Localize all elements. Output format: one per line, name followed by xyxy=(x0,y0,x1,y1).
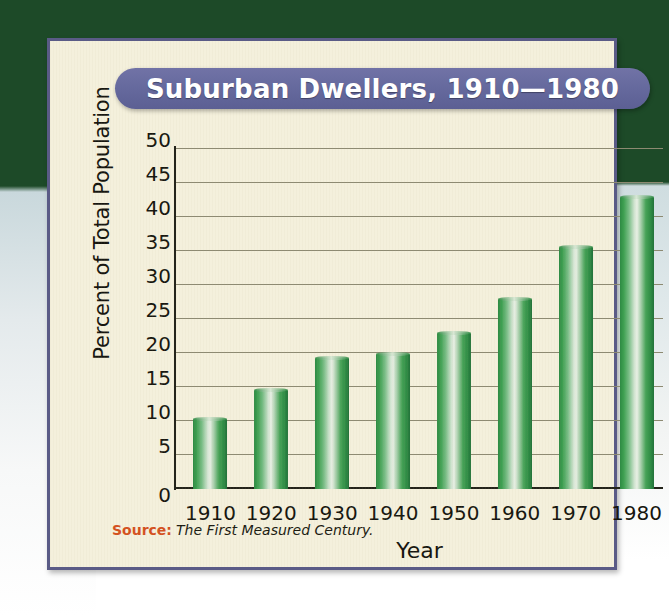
bar xyxy=(376,354,410,489)
y-axis-tick-label: 0 xyxy=(158,485,171,505)
bar-cap xyxy=(254,388,288,392)
y-axis-tick-label: 25 xyxy=(146,300,171,320)
bar-cap xyxy=(498,297,532,301)
source-label: Source: xyxy=(112,522,172,538)
y-axis-tick-label: 15 xyxy=(146,368,171,388)
source-text: The First Measured Century. xyxy=(176,522,374,538)
bar-cap xyxy=(620,195,654,199)
y-axis-tick-label: 10 xyxy=(146,402,171,422)
gridline: 45 xyxy=(176,182,663,183)
bar-cap xyxy=(437,331,471,335)
y-axis-tick-label: 35 xyxy=(146,232,171,252)
y-axis-title: Percent of Total Population xyxy=(90,73,114,373)
bar-cap xyxy=(559,245,593,249)
y-axis-tick-label: 5 xyxy=(158,436,171,456)
plot-area: 05101520253035404550 1910192019301940195… xyxy=(176,149,663,489)
bar xyxy=(559,247,593,489)
x-axis-title: Year xyxy=(176,538,663,563)
gridline: 50 xyxy=(176,148,663,149)
bar xyxy=(193,419,227,489)
y-axis-tick-label: 50 xyxy=(146,130,171,150)
page-title: Suburban Dwellers, 1910—1980 xyxy=(146,74,619,104)
bar xyxy=(254,390,288,489)
y-axis-tick-label: 45 xyxy=(146,164,171,184)
gridline: 40 xyxy=(176,216,663,217)
source-attribution: Source:The First Measured Century. xyxy=(112,522,374,538)
bar xyxy=(315,358,349,489)
y-axis-tick-label: 20 xyxy=(146,334,171,354)
bar xyxy=(620,197,654,489)
chart-card: Suburban Dwellers, 1910—1980 Percent of … xyxy=(47,38,617,570)
bar-cap xyxy=(376,352,410,356)
bar-cap xyxy=(315,356,349,360)
bar-cap xyxy=(193,417,227,421)
chart-title-banner: Suburban Dwellers, 1910—1980 xyxy=(115,68,650,109)
bar xyxy=(437,333,471,489)
bar xyxy=(498,299,532,489)
y-axis-tick-label: 40 xyxy=(146,198,171,218)
y-axis-tick-label: 30 xyxy=(146,266,171,286)
x-axis-tick-label: 1980 xyxy=(598,501,669,525)
